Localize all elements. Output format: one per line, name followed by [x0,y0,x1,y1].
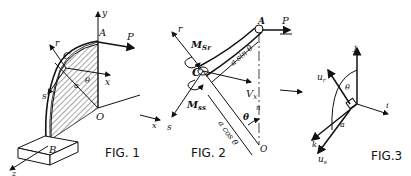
label-j: j [352,43,357,52]
label-r: r [178,24,183,34]
figure-1: y A P r C x θ a s O B z FIG. 1 [10,8,140,176]
label-a: a [340,120,345,129]
label-theta: θ [85,76,90,85]
x-axis-line [98,95,140,108]
label-p: P [281,15,289,26]
label-k: k [312,140,317,149]
label-c: C [63,50,71,61]
label-i: i [386,101,389,110]
label-n: n [256,104,261,112]
i-axis-arrow [357,104,388,114]
figure-3: j i θ ur a k us FIG.3 [280,34,402,165]
label-theta: θ [345,83,350,92]
label-v: Vx [246,88,257,101]
label-z: z [11,169,17,176]
label-theta: θ [243,112,249,122]
hatched-quarter-region [50,42,98,140]
label-x-c: x [105,77,110,87]
label-s: s [167,122,172,132]
label-u-s: us [318,154,327,165]
diagram-canvas: y A P r C x θ a s O B z FIG. 1 [0,0,411,176]
x-axis-arrow [140,115,160,120]
label-o: O [260,144,268,154]
label-r: r [55,38,60,48]
label-y: y [101,8,108,18]
label-a: A [257,16,265,26]
bar-lower-edge [206,32,262,76]
label-a: A [98,27,106,38]
theta-arc [248,119,259,125]
label-a-sin: a sin θ [229,43,255,67]
label-c: C [192,66,201,79]
label-m-sr: MSr [190,39,212,52]
figure-2: A P r MSr C a sin θ Vx n Mss s x θ a cos… [140,15,290,160]
fig3-caption: FIG.3 [371,149,402,163]
label-x: x [152,121,157,130]
label-s: s [42,91,47,101]
label-u-r: ur [317,72,327,83]
fig1-caption: FIG. 1 [105,146,140,160]
k-axis-arrow [312,104,357,140]
label-p: P [126,31,134,42]
x-continuation-arrow [280,90,302,92]
bar-end-a [255,25,263,33]
label-b: B [48,144,56,155]
label-o: O [96,111,104,122]
label-m-ss: Mss [186,99,206,112]
fig2-caption: FIG. 2 [191,146,226,160]
label-radius-a: a [74,81,79,90]
force-p-arrow [98,42,134,48]
